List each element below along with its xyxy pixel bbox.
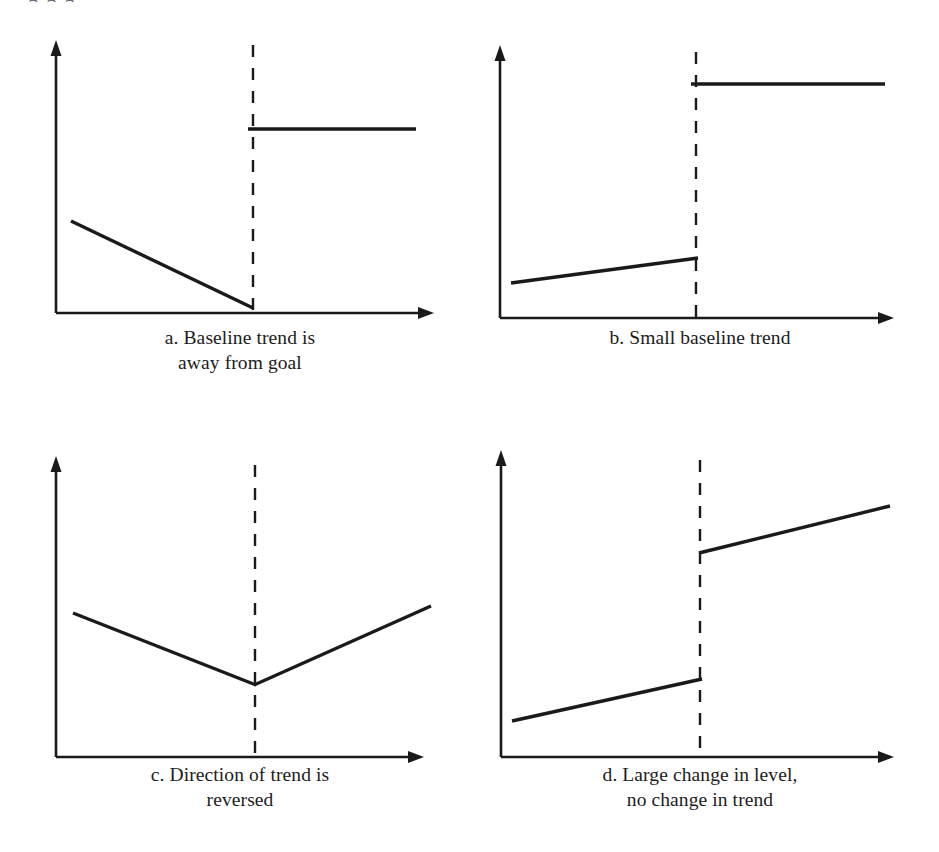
caption-panel-d: d. Large change in level, no change in t… (510, 762, 890, 812)
y-axis-a (51, 40, 62, 313)
caption-panel-c: c. Direction of trend is reversed (60, 762, 420, 812)
baseline-series-c (73, 613, 256, 685)
figure-root: g g g a. Baseline trend is away from goa… (0, 0, 939, 852)
panel-b: b. Small baseline trend (470, 0, 939, 330)
y-axis-c (51, 456, 62, 757)
y-axis-d (496, 450, 507, 757)
panel-d-chart (470, 420, 939, 770)
caption-panel-a: a. Baseline trend is away from goal (60, 325, 420, 375)
panel-a: a. Baseline trend is away from goal (0, 0, 470, 330)
x-axis-a (56, 307, 434, 319)
panel-d: d. Large change in level, no change in t… (470, 420, 939, 770)
panel-c: c. Direction of trend is reversed (0, 420, 470, 770)
y-axis-b (495, 45, 506, 318)
baseline-series-b (511, 258, 698, 283)
panel-a-chart (0, 0, 470, 330)
baseline-series-d (512, 679, 702, 721)
panel-b-chart (470, 0, 939, 330)
intervention-series-c (254, 606, 431, 685)
baseline-series-a (71, 221, 253, 308)
caption-panel-b: b. Small baseline trend (510, 325, 890, 350)
intervention-series-d (699, 506, 890, 553)
panel-c-chart (0, 420, 470, 770)
